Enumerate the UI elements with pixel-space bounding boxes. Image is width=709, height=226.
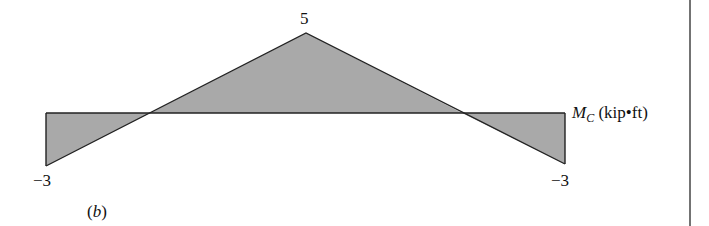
quantity-symbol: M (572, 103, 586, 122)
axis-quantity-label: MC (kip•ft) (572, 104, 648, 124)
peak-value-label: 5 (300, 10, 309, 27)
central-positive-region (150, 33, 462, 113)
subfigure-label: (b) (87, 203, 107, 220)
subfigure-text: (b) (87, 202, 107, 221)
units-label: (kip•ft) (598, 103, 647, 122)
quantity-subscript: C (586, 111, 594, 125)
right-value-label: −3 (551, 172, 569, 189)
left-value-label: −3 (33, 172, 51, 189)
